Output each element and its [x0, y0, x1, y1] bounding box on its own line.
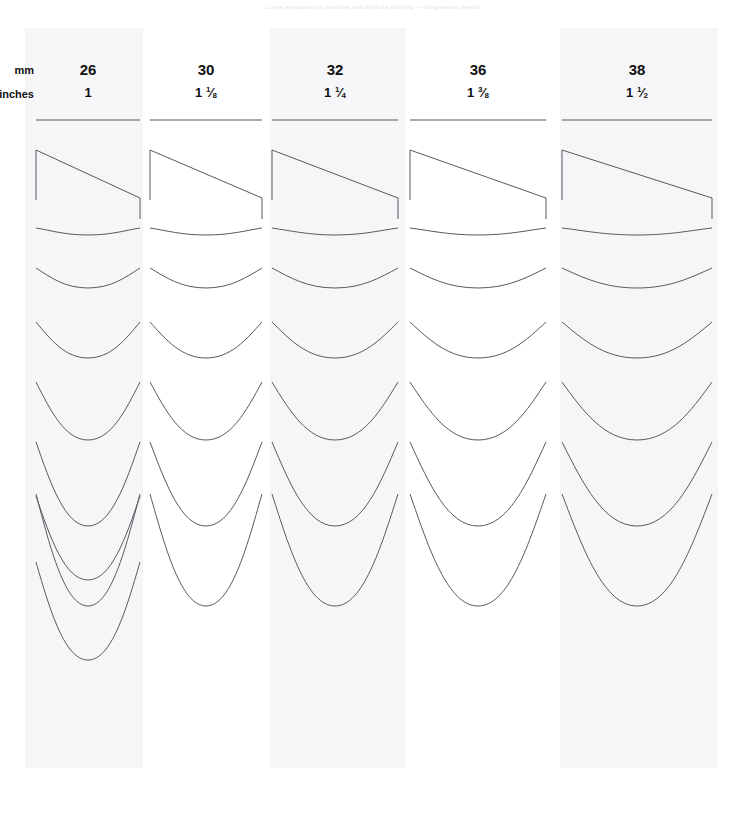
row-curve-shape — [562, 494, 712, 606]
row-curve-shape — [36, 442, 140, 526]
row-curve-shape — [150, 322, 262, 358]
row-curve-shape — [410, 494, 546, 606]
curve-column-36 — [410, 120, 546, 606]
row-curve-shape — [410, 322, 546, 358]
curve-column-30 — [150, 120, 262, 606]
row-curve-shape — [36, 496, 140, 580]
row-diagonal-shape — [150, 150, 262, 219]
row-curve-shape — [150, 382, 262, 440]
row-curve-shape — [36, 562, 140, 660]
curve-column-38 — [562, 120, 712, 606]
curve-template-sheet: Curve templates for neckline and armhole… — [0, 0, 745, 822]
row-curve-shape — [36, 228, 140, 235]
row-curve-shape — [562, 268, 712, 288]
row-curve-shape — [36, 494, 140, 606]
row-curve-shape — [272, 228, 398, 235]
row-curve-shape — [36, 268, 140, 288]
row-curve-shape — [410, 382, 546, 440]
row-curve-shape — [272, 322, 398, 358]
row-diagonal-shape — [562, 150, 712, 219]
row-curve-shape — [562, 322, 712, 358]
row-curve-shape — [150, 228, 262, 235]
row-curve-shape — [562, 442, 712, 526]
row-diagonal-shape — [36, 150, 140, 219]
row-curve-shape — [562, 382, 712, 440]
row-curve-shape — [36, 322, 140, 358]
row-curve-shape — [150, 268, 262, 288]
row-curve-shape — [272, 382, 398, 440]
row-diagonal-shape — [272, 150, 398, 219]
row-curve-shape — [410, 268, 546, 288]
curve-column-32 — [272, 120, 398, 606]
row-curve-shape — [410, 228, 546, 235]
row-curve-shape — [272, 442, 398, 526]
row-curve-shape — [150, 442, 262, 526]
row-curve-shape — [272, 494, 398, 606]
curve-column-26 — [36, 120, 140, 660]
row-curve-shape — [150, 494, 262, 606]
curve-grid — [0, 0, 745, 822]
row-curve-shape — [36, 382, 140, 440]
row-curve-shape — [272, 268, 398, 288]
row-diagonal-shape — [410, 150, 546, 219]
row-curve-shape — [562, 228, 712, 235]
row-curve-shape — [410, 442, 546, 526]
